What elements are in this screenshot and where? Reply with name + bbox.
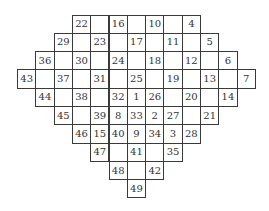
grid-cell-empty [145, 143, 164, 162]
grid-cell-22: 22 [72, 15, 91, 34]
grid-cell-11: 11 [163, 33, 182, 52]
grid-cell-14: 14 [218, 88, 237, 107]
grid-cell-empty [72, 33, 91, 52]
grid-cell-23: 23 [90, 33, 109, 52]
grid-cell-1: 1 [127, 88, 146, 107]
grid-cell-empty [163, 15, 182, 34]
grid-cell-19: 19 [163, 69, 182, 88]
grid-cell-39: 39 [90, 106, 109, 125]
grid-cell-43: 43 [17, 69, 36, 88]
grid-cell-empty [35, 69, 54, 88]
grid-cell-empty [145, 69, 164, 88]
grid-cell-42: 42 [145, 161, 164, 180]
grid-cell-30: 30 [72, 51, 91, 70]
grid-cell-38: 38 [72, 88, 91, 107]
grid-cell-4: 4 [182, 15, 201, 34]
grid-cell-41: 41 [127, 143, 146, 162]
grid-cell-44: 44 [35, 88, 54, 107]
grid-cell-empty [109, 143, 128, 162]
grid-cell-8: 8 [109, 106, 128, 125]
grid-cell-9: 9 [127, 124, 146, 143]
grid-cell-37: 37 [54, 69, 73, 88]
grid-cell-36: 36 [35, 51, 54, 70]
grid-cell-46: 46 [72, 124, 91, 143]
grid-cell-34: 34 [145, 124, 164, 143]
grid-cell-empty [90, 51, 109, 70]
grid-cell-20: 20 [182, 88, 201, 107]
grid-cell-27: 27 [163, 106, 182, 125]
grid-cell-empty [72, 106, 91, 125]
grid-cell-48: 48 [109, 161, 128, 180]
grid-cell-empty [127, 161, 146, 180]
grid-cell-empty [200, 88, 219, 107]
grid-cell-3: 3 [163, 124, 182, 143]
grid-cell-empty [90, 15, 109, 34]
grid-cell-empty [218, 69, 237, 88]
grid-cell-12: 12 [182, 51, 201, 70]
grid-cell-empty [145, 33, 164, 52]
grid-cell-empty [90, 88, 109, 107]
grid-cell-28: 28 [182, 124, 201, 143]
grid-cell-empty [163, 51, 182, 70]
grid-cell-empty [72, 69, 91, 88]
grid-cell-empty [109, 69, 128, 88]
grid-cell-49: 49 [127, 179, 146, 198]
grid-cell-empty [127, 15, 146, 34]
grid-cell-17: 17 [127, 33, 146, 52]
grid-cell-empty [109, 33, 128, 52]
grid-cell-5: 5 [200, 33, 219, 52]
grid-cell-35: 35 [163, 143, 182, 162]
grid-cell-13: 13 [200, 69, 219, 88]
grid-cell-7: 7 [237, 69, 256, 88]
grid-cell-29: 29 [54, 33, 73, 52]
number-grid-diagram: 2216104292317115363024181264337312519137… [0, 0, 269, 211]
grid-cell-47: 47 [90, 143, 109, 162]
grid-cell-empty [200, 51, 219, 70]
grid-cell-empty [127, 51, 146, 70]
grid-cell-18: 18 [145, 51, 164, 70]
grid-cell-16: 16 [109, 15, 128, 34]
grid-cell-2: 2 [145, 106, 164, 125]
grid-cell-21: 21 [200, 106, 219, 125]
grid-cell-empty [54, 88, 73, 107]
grid-cell-empty [182, 33, 201, 52]
grid-cell-15: 15 [90, 124, 109, 143]
grid-cell-empty [182, 69, 201, 88]
grid-cell-empty [54, 51, 73, 70]
grid-cell-32: 32 [109, 88, 128, 107]
grid-cell-25: 25 [127, 69, 146, 88]
grid-cell-24: 24 [109, 51, 128, 70]
grid-cell-empty [163, 88, 182, 107]
grid-cell-33: 33 [127, 106, 146, 125]
grid-cell-empty [182, 106, 201, 125]
grid-cell-45: 45 [54, 106, 73, 125]
grid-cell-40: 40 [109, 124, 128, 143]
grid-cell-26: 26 [145, 88, 164, 107]
grid-cell-31: 31 [90, 69, 109, 88]
grid-cell-6: 6 [218, 51, 237, 70]
grid-cell-10: 10 [145, 15, 164, 34]
